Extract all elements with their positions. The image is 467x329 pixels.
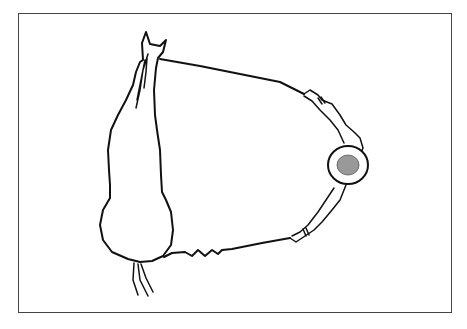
diagram-canvas xyxy=(0,0,467,329)
handler-lower-arm xyxy=(290,185,346,242)
handler-cuff-lower xyxy=(303,228,309,236)
horse-tail xyxy=(133,263,153,296)
handler-head xyxy=(337,155,359,175)
horse-mane xyxy=(136,54,148,108)
upper-line xyxy=(160,59,304,94)
lower-line xyxy=(164,238,290,257)
horse-outline xyxy=(100,32,173,262)
